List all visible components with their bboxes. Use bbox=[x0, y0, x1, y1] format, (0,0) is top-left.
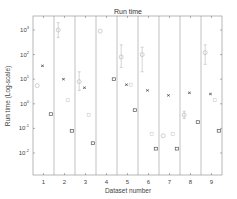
x-tick-label: 5 bbox=[126, 179, 130, 185]
y-tick-label: 100 bbox=[20, 99, 30, 107]
run-time-chart: Run time 10-210-1100101102103 123456789 … bbox=[0, 0, 237, 199]
x-tick-label: 7 bbox=[168, 179, 172, 185]
y-tick-label: 103 bbox=[20, 25, 30, 33]
x-tick-label: 2 bbox=[63, 179, 67, 185]
plot-area bbox=[33, 16, 222, 175]
y-tick-label: 101 bbox=[20, 74, 30, 82]
chart-title: Run time bbox=[114, 8, 142, 15]
x-tick-label: 9 bbox=[210, 179, 214, 185]
y-axis-label: Run time (Log-scale) bbox=[4, 66, 12, 126]
x-tick-label: 4 bbox=[105, 179, 109, 185]
x-tick-label: 3 bbox=[84, 179, 88, 185]
x-tick-label: 8 bbox=[189, 179, 193, 185]
x-tick-label: 1 bbox=[42, 179, 46, 185]
y-tick-label: 10-2 bbox=[19, 148, 30, 156]
y-tick-label: 10-1 bbox=[19, 123, 30, 131]
y-tick-label: 102 bbox=[20, 50, 30, 58]
x-axis-label: Dataset number bbox=[105, 187, 152, 194]
x-tick-label: 6 bbox=[147, 179, 151, 185]
